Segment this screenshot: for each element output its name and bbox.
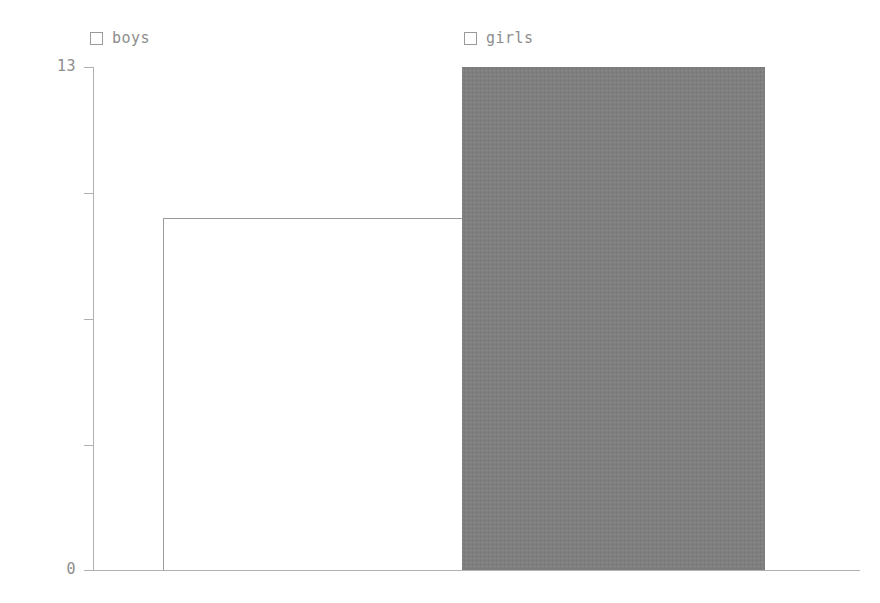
bar-girls[interactable] bbox=[462, 67, 765, 570]
legend-label-girls: girls bbox=[486, 31, 534, 46]
legend-entry-girls[interactable]: girls bbox=[464, 31, 534, 46]
y-tick-mark-1 bbox=[84, 445, 94, 446]
y-tick-mark-bottom bbox=[84, 570, 94, 571]
y-tick-mark-3 bbox=[84, 193, 94, 194]
legend-label-boys: boys bbox=[112, 31, 150, 46]
y-tick-mark-top bbox=[84, 67, 94, 68]
legend-swatch-girls-icon bbox=[464, 32, 477, 45]
bar-chart: boys girls 13 0 bbox=[0, 0, 880, 603]
x-axis-line bbox=[93, 570, 860, 571]
y-tick-mark-2 bbox=[84, 319, 94, 320]
y-axis-min-label: 0 bbox=[28, 562, 76, 577]
y-axis-max-label: 13 bbox=[28, 59, 76, 74]
bar-boys[interactable] bbox=[163, 218, 463, 570]
legend-swatch-boys-icon bbox=[90, 32, 103, 45]
legend-entry-boys[interactable]: boys bbox=[90, 31, 150, 46]
